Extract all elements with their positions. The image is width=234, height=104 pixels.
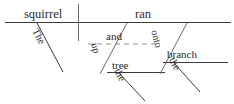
sentence-diagram: squirrel ran The and up tree the onto br… <box>0 0 234 104</box>
word-conjunction: and <box>106 31 122 42</box>
word-subject: squirrel <box>24 8 62 21</box>
word-verb: ran <box>135 8 151 21</box>
